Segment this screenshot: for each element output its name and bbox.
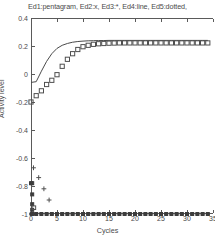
- series-ed2-marker: [47, 198, 52, 203]
- x-tick-label: 5: [55, 215, 59, 222]
- series-ed4-line: [31, 40, 208, 82]
- series-ed3-marker: [134, 213, 137, 216]
- x-tick-label: 25: [157, 215, 165, 222]
- series-ed1-marker: [190, 41, 194, 45]
- plot-area: 0.40.20-0.2-0.4-0.6-0.8-1 05101520253035: [31, 18, 213, 214]
- series-ed1-marker: [206, 41, 210, 45]
- series-ed1-marker: [169, 41, 173, 45]
- series-ed1-marker: [123, 41, 127, 45]
- series-ed1-marker: [29, 100, 33, 104]
- series-ed3-axis-cluster-marker: [31, 182, 34, 185]
- series-ed1-marker: [81, 45, 85, 49]
- x-tick-label: 15: [105, 215, 113, 222]
- x-tick-label: 20: [131, 215, 139, 222]
- series-ed3-marker: [128, 213, 131, 216]
- series-ed1-marker: [133, 41, 137, 45]
- series-ed3-marker: [144, 213, 147, 216]
- series-ed3-marker: [113, 213, 116, 216]
- series-ed1-marker: [76, 47, 80, 51]
- series-ed3-marker: [102, 213, 105, 216]
- series-ed3-marker: [97, 213, 100, 216]
- y-tick-label: 0.4: [18, 15, 28, 22]
- series-ed1-marker: [159, 41, 163, 45]
- y-tick-label: -1: [22, 211, 28, 218]
- series-ed3-marker: [87, 213, 90, 216]
- series-ed1-marker: [164, 41, 168, 45]
- series-ed3-marker: [66, 213, 69, 216]
- series-ed1-marker: [55, 73, 59, 77]
- series-ed3-marker: [149, 213, 152, 216]
- y-tick-label: -0.2: [16, 99, 28, 106]
- series-ed3-marker: [196, 213, 199, 216]
- x-tick-label: 10: [79, 215, 87, 222]
- series-ed3-marker: [45, 213, 48, 216]
- series-ed1-marker: [154, 41, 158, 45]
- series-ed3-marker: [139, 213, 142, 216]
- series-ed3-marker: [206, 213, 209, 216]
- series-ed3-marker: [71, 213, 74, 216]
- series-ed1-marker: [175, 41, 179, 45]
- series-ed3-marker: [118, 213, 121, 216]
- x-tick-mark: [213, 210, 214, 213]
- series-ed3-marker: [160, 213, 163, 216]
- series-ed3-marker: [154, 213, 157, 216]
- series-ed1-marker: [91, 42, 95, 46]
- y-tick-label: 0.2: [18, 43, 28, 50]
- series-ed2-marker: [31, 165, 36, 170]
- series-ed3-axis-cluster-marker: [31, 203, 34, 206]
- series-ed3-marker: [40, 213, 43, 216]
- series-ed3-marker: [82, 213, 85, 216]
- y-tick-label: -0.4: [16, 127, 28, 134]
- series-ed1-marker: [71, 52, 75, 56]
- series-ed1-marker: [107, 41, 111, 45]
- y-tick-label: 0: [24, 71, 28, 78]
- y-tick-label: -0.8: [16, 183, 28, 190]
- series-ed3-axis-cluster-marker: [31, 193, 34, 196]
- series-ed1-marker: [185, 41, 189, 45]
- y-tick-label: -0.6: [16, 155, 28, 162]
- series-ed3-marker: [123, 213, 126, 216]
- series-ed2-marker: [42, 186, 47, 191]
- x-tick-label: 35: [209, 215, 215, 222]
- series-ed3-marker: [61, 213, 64, 216]
- series-ed3-marker: [56, 213, 59, 216]
- series-ed1-marker: [97, 42, 101, 46]
- series-ed1-marker: [86, 43, 90, 47]
- series-ed3-marker: [108, 213, 111, 216]
- series-ed1-marker: [138, 41, 142, 45]
- series-ed3-marker: [180, 213, 183, 216]
- series-ed3-marker: [165, 213, 168, 216]
- x-tick-mark-top: [213, 19, 214, 22]
- series-ed1-marker: [201, 41, 205, 45]
- x-tick-label: 0: [29, 215, 33, 222]
- series-ed3-axis-cluster-marker: [31, 213, 34, 216]
- series-ed1-marker: [102, 41, 106, 45]
- series-ed3-marker: [186, 213, 189, 216]
- series-ed3-marker: [201, 213, 204, 216]
- x-tick-label: 30: [183, 215, 191, 222]
- x-axis-label: Cycles: [0, 226, 215, 235]
- series-ed3-marker: [175, 213, 178, 216]
- series-ed1-marker: [128, 41, 132, 45]
- series-ed3-marker: [35, 213, 38, 216]
- series-layer: [31, 18, 213, 214]
- series-ed1-marker: [45, 82, 49, 86]
- series-ed1-marker: [195, 41, 199, 45]
- series-ed1-marker: [39, 89, 43, 93]
- series-ed2-marker: [36, 175, 41, 180]
- series-ed1-marker: [149, 41, 153, 45]
- series-ed3-marker: [92, 213, 95, 216]
- series-ed3-marker: [76, 213, 79, 216]
- series-ed3-marker: [191, 213, 194, 216]
- series-ed3-marker: [50, 213, 53, 216]
- series-ed1-marker: [180, 41, 184, 45]
- series-ed3-marker: [170, 213, 173, 216]
- series-ed1-marker: [34, 94, 38, 98]
- series-ed1-marker: [117, 41, 121, 45]
- series-ed1-marker: [143, 41, 147, 45]
- chart-title: Ed1:pentagram, Ed2:x, Ed3:*, Ed4:line, E…: [0, 2, 215, 11]
- series-ed1-marker: [60, 64, 64, 68]
- figure-canvas: Ed1:pentagram, Ed2:x, Ed3:*, Ed4:line, E…: [0, 0, 215, 241]
- series-ed1-marker: [65, 57, 69, 61]
- y-axis-label: Activity level: [0, 79, 5, 118]
